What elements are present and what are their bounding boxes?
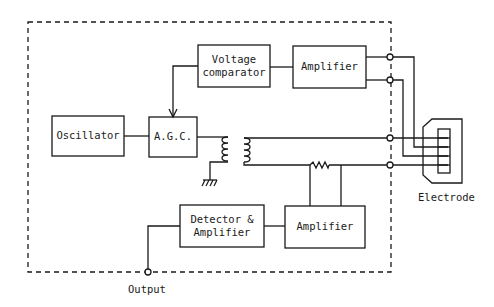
terminal-2 bbox=[387, 77, 393, 83]
voltage-comparator-label-1: Voltage bbox=[212, 53, 256, 66]
agc-label: A.G.C. bbox=[154, 130, 192, 143]
output-terminal bbox=[145, 269, 151, 275]
agc-block: A.G.C. bbox=[149, 117, 197, 157]
voltage-comparator-block: Voltage comparator bbox=[198, 45, 270, 87]
amplifier-bottom-block: Amplifier bbox=[285, 206, 365, 248]
wire-detector-to-output bbox=[148, 226, 180, 269]
oscillator-label: Oscillator bbox=[56, 129, 119, 142]
output-label: Output bbox=[128, 283, 166, 296]
oscillator-block: Oscillator bbox=[52, 116, 124, 156]
detector-amplifier-label-1: Detector & bbox=[190, 213, 253, 226]
detector-amplifier-block: Detector & Amplifier bbox=[180, 205, 264, 247]
amplifier-bottom-label: Amplifier bbox=[297, 220, 354, 233]
transformer-icon bbox=[222, 137, 250, 162]
terminal-3 bbox=[387, 135, 393, 141]
resistor-icon bbox=[310, 162, 329, 168]
amplifier-top-block: Amplifier bbox=[293, 46, 366, 88]
wire-to-electrode-2 bbox=[393, 80, 448, 156]
electrode-connector-icon bbox=[423, 119, 462, 183]
amplifier-top-label: Amplifier bbox=[301, 60, 358, 73]
voltage-comparator-label-2: comparator bbox=[202, 66, 265, 79]
wire-to-electrode-1 bbox=[393, 57, 448, 147]
wire-transformer-primary-ground bbox=[210, 162, 228, 180]
ground-icon bbox=[202, 180, 217, 186]
terminal-4 bbox=[387, 162, 393, 168]
electrode-label: Electrode bbox=[418, 191, 475, 204]
terminal-1 bbox=[387, 54, 393, 60]
detector-amplifier-label-2: Amplifier bbox=[194, 226, 251, 239]
wire-secondary-bottom bbox=[244, 162, 310, 165]
